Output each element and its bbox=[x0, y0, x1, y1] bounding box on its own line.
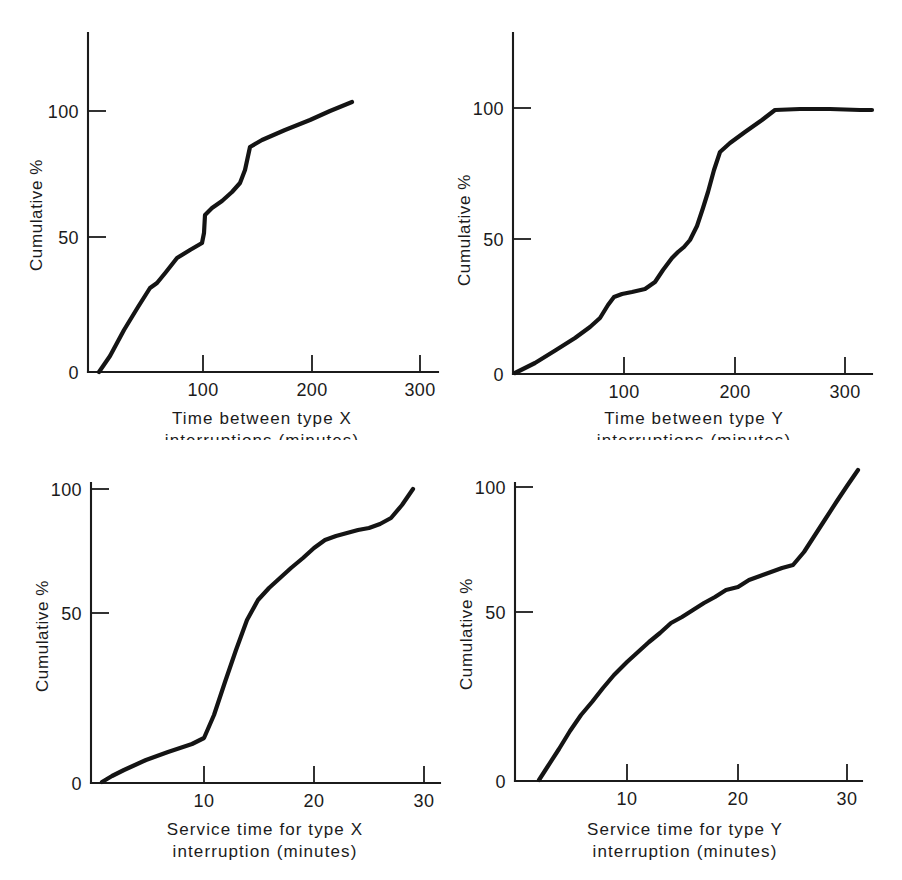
y-tick-label-0: 0 bbox=[72, 774, 82, 794]
x-axis-title-line2: interruptions (minutes) bbox=[597, 431, 791, 440]
y-tick-label-50: 50 bbox=[58, 228, 79, 248]
x-axis-title-line1: Time between type Y bbox=[604, 409, 784, 428]
x-tick-label-100: 100 bbox=[608, 382, 639, 402]
chart-panel-bottom-right: 100 50 0 10 20 30 Cumulative % Service t… bbox=[451, 440, 902, 880]
x-tick-label-10: 10 bbox=[617, 789, 638, 809]
x-tick-label-300: 300 bbox=[404, 380, 435, 400]
y-tick-label-100: 100 bbox=[473, 99, 504, 119]
x-tick-label-30: 30 bbox=[837, 789, 858, 809]
y-tick-label-100: 100 bbox=[51, 480, 82, 500]
x-axis-title-line2: interruption (minutes) bbox=[173, 842, 358, 861]
cumulative-curve bbox=[102, 489, 413, 782]
y-axis-title: Cumulative % bbox=[457, 578, 476, 690]
x-axis-title-line2: interruptions (minutes) bbox=[165, 431, 359, 440]
y-tick-label-0: 0 bbox=[496, 772, 506, 792]
y-tick-label-50: 50 bbox=[485, 603, 506, 623]
plot-top-right: 100 50 0 100 200 300 Cumulative % Time b… bbox=[451, 0, 902, 440]
figure-sheet: 100 50 0 100 200 300 Cumulative % Time b… bbox=[0, 0, 902, 880]
x-tick-label-20: 20 bbox=[728, 789, 749, 809]
y-tick-label-100: 100 bbox=[475, 478, 506, 498]
y-tick-label-50: 50 bbox=[61, 604, 82, 624]
y-axis-title: Cumulative % bbox=[33, 580, 52, 692]
plot-bottom-left: 100 50 0 10 20 30 Cumulative % Service t… bbox=[0, 440, 451, 880]
x-tick-label-30: 30 bbox=[414, 791, 435, 811]
x-axis-title-line2: interruption (minutes) bbox=[593, 842, 778, 861]
cumulative-curve bbox=[539, 470, 858, 780]
chart-panel-bottom-left: 100 50 0 10 20 30 Cumulative % Service t… bbox=[0, 440, 451, 880]
x-axis-title-line1: Service time for type Y bbox=[587, 820, 783, 839]
y-tick-label-100: 100 bbox=[48, 102, 79, 122]
y-tick-label-0: 0 bbox=[69, 363, 79, 383]
x-tick-label-300: 300 bbox=[829, 382, 860, 402]
y-axis-title: Cumulative % bbox=[455, 174, 474, 286]
x-tick-label-200: 200 bbox=[296, 380, 327, 400]
x-tick-label-100: 100 bbox=[187, 380, 218, 400]
y-tick-label-50: 50 bbox=[483, 230, 504, 250]
cumulative-curve bbox=[99, 102, 352, 372]
chart-panel-top-left: 100 50 0 100 200 300 Cumulative % Time b… bbox=[0, 0, 451, 440]
y-axis-title: Cumulative % bbox=[27, 159, 46, 271]
plot-top-left: 100 50 0 100 200 300 Cumulative % Time b… bbox=[0, 0, 451, 440]
x-tick-label-200: 200 bbox=[719, 382, 750, 402]
plot-bottom-right: 100 50 0 10 20 30 Cumulative % Service t… bbox=[451, 440, 902, 880]
x-axis-title-line1: Service time for type X bbox=[167, 820, 363, 839]
cumulative-curve bbox=[515, 109, 872, 373]
x-tick-label-10: 10 bbox=[194, 791, 215, 811]
chart-panel-top-right: 100 50 0 100 200 300 Cumulative % Time b… bbox=[451, 0, 902, 440]
y-tick-label-0: 0 bbox=[494, 365, 504, 385]
x-tick-label-20: 20 bbox=[304, 791, 325, 811]
x-axis-title-line1: Time between type X bbox=[172, 409, 352, 428]
